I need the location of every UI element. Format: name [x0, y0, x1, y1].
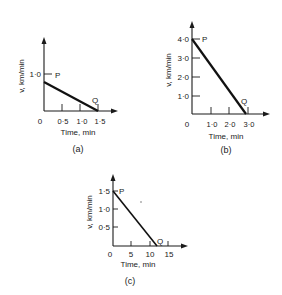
y-tick-label: 1·0	[177, 92, 189, 101]
velocity-line	[192, 39, 246, 114]
speck	[140, 201, 141, 202]
origin-label: 0	[38, 117, 43, 126]
origin-label: 0	[108, 250, 113, 259]
y-axis-label: v, km/min	[17, 59, 26, 93]
graph-a: 1·0 0 0·5 1·0 1·5 P Q v, km/min Time, mi…	[17, 37, 118, 154]
point-q-label: Q	[157, 237, 163, 246]
y-axis-arrow-icon	[111, 174, 116, 181]
y-tick-label: 1·5	[98, 187, 110, 196]
caption: (a)	[73, 144, 84, 154]
point-p-label: P	[119, 187, 124, 196]
x-axis-label: Time, min	[61, 128, 96, 137]
x-axis-arrow-icon	[111, 109, 118, 114]
x-axis-arrow-icon	[181, 244, 188, 249]
y-tick-label: 2·0	[177, 73, 189, 82]
x-tick-label: 10	[146, 250, 155, 259]
x-tick-label: 0·5	[58, 117, 69, 126]
y-axis-label: v, km/min	[85, 195, 94, 229]
velocity-time-diagrams: 1·0 0 0·5 1·0 1·5 P Q v, km/min Time, mi…	[0, 0, 282, 295]
y-tick-label: 1·0	[98, 205, 110, 214]
x-tick-label: 5	[129, 250, 134, 259]
point-q-label: Q	[241, 97, 247, 106]
point-p-label: P	[55, 71, 60, 80]
graph-b: 4·0 3·0 2·0 1·0 0 1·0 2·0 3·0 P Q v, km/…	[164, 21, 270, 155]
point-q-label: Q	[92, 96, 98, 105]
x-tick-label: 1·0	[207, 120, 218, 129]
x-tick-label: 3·0	[244, 120, 255, 129]
x-axis-label: Time, min	[121, 260, 156, 269]
graph-c: 1·5 1·0 0·5 0 5 10 15 P Q v, km/min Time…	[85, 174, 188, 286]
x-axis-arrow-icon	[263, 112, 270, 117]
origin-label: 0	[185, 120, 190, 129]
x-tick-label: 15	[165, 250, 174, 259]
x-tick-label: 2·0	[225, 120, 236, 129]
point-p-label: P	[202, 35, 207, 44]
caption: (b)	[221, 145, 232, 155]
y-axis-arrow-icon	[190, 21, 195, 28]
x-tick-label: 1·0	[77, 117, 88, 126]
x-tick-label: 1·5	[95, 117, 106, 126]
velocity-line	[44, 82, 98, 111]
y-tick-label: 4·0	[177, 35, 189, 44]
y-tick-label: 1·0	[29, 70, 41, 79]
velocity-line	[113, 191, 157, 246]
x-axis-label: Time, min	[209, 132, 244, 141]
y-tick-label: 3·0	[177, 54, 189, 63]
y-axis-arrow-icon	[42, 37, 47, 44]
y-tick-label: 0·5	[98, 223, 110, 232]
y-axis-label: v, km/min	[164, 53, 173, 87]
caption: (c)	[125, 276, 136, 286]
